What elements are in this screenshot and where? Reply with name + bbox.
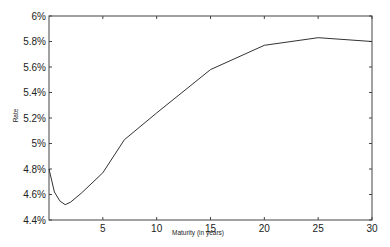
x-tick-label: 25 — [313, 223, 325, 234]
plot-frame — [49, 16, 372, 220]
yield-curve-line — [49, 38, 372, 205]
yield-curve-chart: 510152025304.4%4.6%4.8%5%5.2%5.4%5.6%5.8… — [0, 0, 390, 247]
y-tick-label: 5% — [32, 138, 47, 149]
y-tick-label: 5.2% — [23, 113, 46, 124]
x-axis-label: Maturity (in years) — [172, 229, 224, 236]
y-tick-label: 4.6% — [23, 189, 46, 200]
x-tick-label: 10 — [151, 223, 163, 234]
x-tick-label: 5 — [100, 223, 106, 234]
y-tick-label: 5.8% — [23, 36, 46, 47]
x-tick-label: 20 — [259, 223, 271, 234]
y-tick-label: 5.4% — [23, 87, 46, 98]
y-tick-label: 4.8% — [23, 164, 46, 175]
x-tick-label: 30 — [366, 223, 378, 234]
y-tick-label: 6% — [32, 11, 47, 22]
y-axis-label: Rate — [12, 109, 19, 123]
y-tick-label: 5.6% — [23, 62, 46, 73]
y-tick-label: 4.4% — [23, 215, 46, 226]
